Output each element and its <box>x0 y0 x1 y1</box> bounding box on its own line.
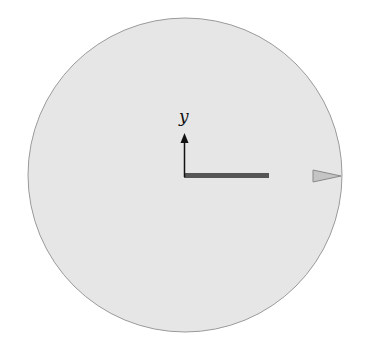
diagram-canvas: y <box>0 0 368 341</box>
y-axis-label: y <box>178 106 189 126</box>
radial-bar <box>184 173 269 178</box>
